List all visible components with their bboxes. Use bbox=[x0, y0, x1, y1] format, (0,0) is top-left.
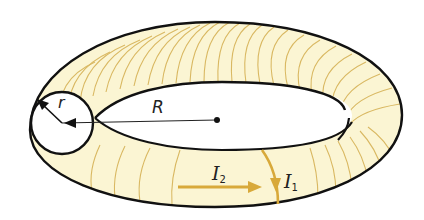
major-radius-label: R bbox=[152, 97, 164, 117]
torus-center-dot bbox=[214, 117, 220, 123]
toroid-diagram: R r I2 I1 bbox=[0, 0, 424, 220]
